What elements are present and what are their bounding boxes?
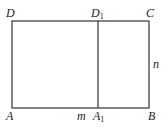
vertex-label-D: D — [5, 6, 15, 20]
vertex-label-D1: D1 — [90, 6, 104, 21]
segment-label-n: n — [153, 57, 159, 71]
vertex-label-A: A — [5, 109, 14, 123]
vertex-label-A1: A1 — [92, 109, 104, 124]
outer-rectangle-ABCD — [12, 21, 149, 108]
segment-label-m: m — [77, 109, 86, 123]
vertex-label-B: B — [148, 109, 156, 123]
diagram-canvas: D D1 C n A m A1 B — [0, 0, 168, 136]
vertex-label-C: C — [146, 6, 155, 20]
